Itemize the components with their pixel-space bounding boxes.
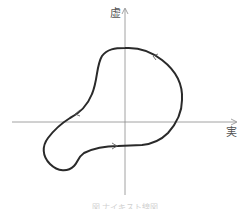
figure-caption: 図 ナイキスト線図 bbox=[80, 204, 170, 209]
nyquist-curve bbox=[44, 48, 182, 170]
x-axis bbox=[12, 119, 237, 125]
y-axis-label: 虚 bbox=[110, 8, 121, 19]
y-axis bbox=[122, 8, 128, 195]
x-axis-label: 実 bbox=[226, 127, 237, 138]
nyquist-diagram bbox=[0, 0, 245, 209]
